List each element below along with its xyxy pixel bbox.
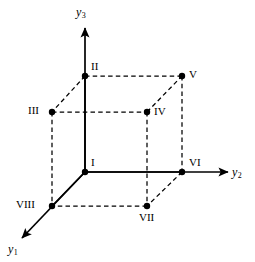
vertex-label-viii: VIII <box>16 199 35 210</box>
vertex-label-iii: III <box>28 105 39 116</box>
vertex-point-i <box>82 169 88 175</box>
vertex-point-ii <box>82 73 88 79</box>
vertex-label-ii: II <box>91 61 98 72</box>
vertex-label-v: V <box>189 69 197 80</box>
vertex-label-iv: IV <box>154 106 166 117</box>
cube-edge-ii-iii <box>52 76 85 112</box>
axis-label-subscript-y3: 3 <box>82 11 86 20</box>
axis-label-subscript-y2: 2 <box>238 171 242 180</box>
vertex-point-vi <box>179 169 185 175</box>
vertex-label-i: I <box>91 157 95 168</box>
vertex-point-iii <box>49 109 55 115</box>
vertex-point-viii <box>49 203 55 209</box>
axis-label-y2: y2 <box>232 166 242 180</box>
axis-label-y1: y1 <box>8 243 18 257</box>
axis-label-base-y1: y <box>8 242 13 256</box>
vertex-label-vii: VII <box>139 212 154 223</box>
vertex-label-vi: VI <box>189 157 201 168</box>
axis-label-base-y3: y <box>76 5 81 19</box>
axis-label-y3: y3 <box>76 6 86 20</box>
cube-edge-vi-vii <box>147 172 182 206</box>
vertex-point-v <box>179 73 185 79</box>
vertex-point-iv <box>144 109 150 115</box>
vertex-point-vii <box>144 203 150 209</box>
diagram-canvas <box>0 0 255 262</box>
axis-label-subscript-y1: 1 <box>14 248 18 257</box>
axis-label-base-y2: y <box>232 165 237 179</box>
cube-vertex-diagram: IIIIIIIVVVIVIIVIIIy1y2y3 <box>0 0 255 262</box>
